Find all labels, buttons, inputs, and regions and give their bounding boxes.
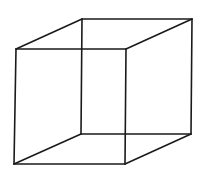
edge-back-right bbox=[191, 19, 192, 134]
edge-bottom-right bbox=[125, 134, 191, 164]
edge-front-right bbox=[125, 49, 126, 164]
back-face bbox=[81, 19, 192, 134]
front-face bbox=[14, 49, 126, 164]
edge-top-left bbox=[16, 19, 82, 49]
necker-cube-diagram bbox=[0, 0, 207, 176]
edge-front-left bbox=[14, 49, 16, 164]
connecting-edges bbox=[14, 19, 192, 164]
edge-top-right bbox=[126, 19, 192, 49]
edge-back-left bbox=[81, 19, 82, 134]
edge-bottom-left bbox=[14, 134, 81, 164]
